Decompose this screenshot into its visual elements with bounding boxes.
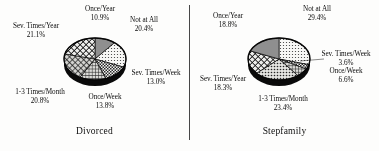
- label-one-three-times-month: 1-3 Times/Month 20.8%: [7, 88, 73, 105]
- label-once-year-pct: 18.8%: [202, 21, 254, 30]
- label-sev-times-week: Sev. Times/Week 3.6%: [314, 50, 378, 67]
- label-one-three-times-month-pct: 23.4%: [250, 104, 316, 113]
- pie-chart-divorced: [63, 29, 127, 91]
- label-not-at-all-pct: 29.4%: [291, 14, 343, 23]
- label-not-at-all: Not at All 29.4%: [291, 5, 343, 22]
- label-once-year-name: Once/Year: [85, 5, 115, 13]
- label-sev-times-year: Sev. Times/Year 21.1%: [3, 22, 69, 39]
- chart-panel-stepfamily: Once/Year 18.8% Not at All 29.4% Sev. Ti…: [190, 0, 379, 151]
- label-sev-times-week-name: Sev. Times/Week: [322, 50, 371, 58]
- label-once-week-pct: 13.8%: [79, 102, 131, 111]
- label-not-at-all-pct: 20.4%: [118, 25, 170, 34]
- label-once-week: Once/Week 13.8%: [79, 93, 131, 110]
- label-sev-times-week-name: Sev. Times/Week: [132, 69, 181, 77]
- label-once-year: Once/Year 18.8%: [202, 12, 254, 29]
- label-once-year-name: Once/Year: [213, 12, 243, 20]
- label-sev-times-year: Sev. Times/Year 18.3%: [190, 75, 256, 92]
- label-one-three-times-month: 1-3 Times/Month 23.4%: [250, 95, 316, 112]
- label-sev-times-week: Sev. Times/Week 13.0%: [124, 69, 188, 86]
- chart-caption-divorced: Divorced: [0, 126, 189, 136]
- label-sev-times-year-name: Sev. Times/Year: [200, 75, 246, 83]
- label-sev-times-year-pct: 21.1%: [3, 31, 69, 40]
- two-pie-chart-figure: Once/Year 10.9% Not at All 20.4% Sev. Ti…: [0, 0, 379, 151]
- label-sev-times-week-pct: 3.6%: [314, 59, 378, 68]
- label-one-three-times-month-name: 1-3 Times/Month: [258, 95, 307, 103]
- label-not-at-all-name: Not at All: [303, 5, 331, 13]
- label-sev-times-year-name: Sev. Times/Year: [13, 22, 59, 30]
- label-one-three-times-month-name: 1-3 Times/Month: [15, 88, 64, 96]
- label-once-week-name: Once/Week: [89, 93, 122, 101]
- label-once-week: Once/Week 6.6%: [320, 67, 372, 84]
- label-sev-times-year-pct: 18.3%: [190, 84, 256, 93]
- label-once-week-name: Once/Week: [330, 67, 363, 75]
- label-once-week-pct: 6.6%: [320, 76, 372, 85]
- label-sev-times-week-pct: 13.0%: [124, 78, 188, 87]
- chart-caption-stepfamily: Stepfamily: [190, 126, 379, 136]
- chart-panel-divorced: Once/Year 10.9% Not at All 20.4% Sev. Ti…: [0, 0, 189, 151]
- label-not-at-all: Not at All 20.4%: [118, 16, 170, 33]
- label-one-three-times-month-pct: 20.8%: [7, 97, 73, 106]
- label-not-at-all-name: Not at All: [130, 16, 158, 24]
